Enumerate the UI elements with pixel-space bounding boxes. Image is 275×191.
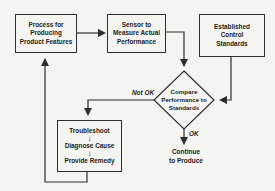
continue-node: Continue to Produce (159, 148, 213, 166)
ok-label: OK (189, 130, 199, 137)
flowchart-canvas: Process for Producing Product Features S… (0, 0, 275, 191)
not-ok-label: Not OK (120, 89, 154, 96)
troubleshoot-node: Troubleshoot ↓ Diagnose Cause ↓ Provide … (57, 120, 122, 172)
process-node: Process for Producing Product Features (15, 14, 77, 53)
standards-node: Established Control Standards (199, 14, 265, 57)
edge-standards-to-compare (221, 57, 231, 100)
troubleshoot-step-3: Provide Remedy (64, 157, 114, 165)
edge-sensor-to-compare (166, 32, 184, 65)
sensor-node: Sensor to Measure Actual Performance (107, 14, 166, 53)
down-arrow-icon: ↓ (88, 136, 92, 141)
edge-compare-to-troubleshoot (88, 100, 154, 114)
compare-node-label: Compare Performance to Standards (154, 86, 214, 114)
down-arrow-icon: ↓ (88, 151, 92, 156)
